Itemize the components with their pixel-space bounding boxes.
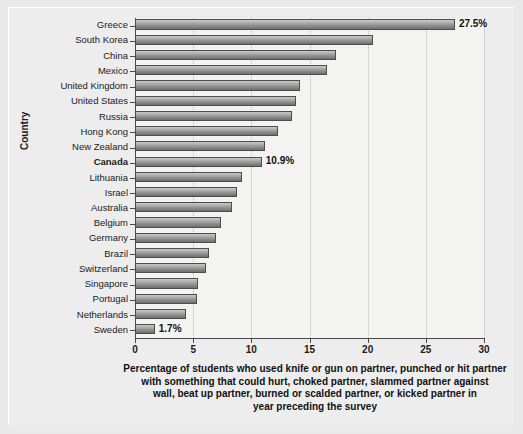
y-axis-line <box>135 18 136 338</box>
y-tick <box>130 285 135 286</box>
y-tick <box>130 132 135 133</box>
bar-row <box>135 247 484 262</box>
x-tick-15 <box>310 338 311 343</box>
y-tick-label-china: China <box>103 50 128 61</box>
y-tick-label-united-kingdom: United Kingdom <box>60 80 128 91</box>
caption-line-2: with something that could hurt, choked p… <box>115 376 515 389</box>
bar-row <box>135 277 484 292</box>
y-tick-label-portugal: Portugal <box>93 293 128 304</box>
y-tick-label-lithuania: Lithuania <box>89 172 128 183</box>
bar-row <box>135 140 484 155</box>
bar <box>135 324 155 334</box>
bar-row <box>135 186 484 201</box>
y-tick-label-netherlands: Netherlands <box>77 309 128 320</box>
caption-line-3: wall, beat up partner, burned or scalded… <box>115 388 515 401</box>
bar-row: 27.5% <box>135 18 484 33</box>
bar-row <box>135 125 484 140</box>
bar-row <box>135 48 484 63</box>
x-tick-10 <box>251 338 252 343</box>
x-tick-label-0: 0 <box>132 344 138 355</box>
y-tick <box>130 254 135 255</box>
y-tick <box>130 269 135 270</box>
bar-row <box>135 64 484 79</box>
bar-row <box>135 94 484 109</box>
y-tick <box>130 56 135 57</box>
y-tick-label-hong-kong: Hong Kong <box>80 126 128 137</box>
bar <box>135 19 455 29</box>
caption-line-4: year preceding the survey <box>115 401 515 414</box>
bar-row: 1.7% <box>135 323 484 338</box>
bar <box>135 96 296 106</box>
caption-line-1: Percentage of students who used knife or… <box>115 363 515 376</box>
gridline-30 <box>484 18 486 338</box>
bar <box>135 248 209 258</box>
bar <box>135 80 300 90</box>
y-tick-label-greece: Greece <box>97 19 128 30</box>
x-tick-label-25: 25 <box>420 344 431 355</box>
bar <box>135 126 278 136</box>
y-tick <box>130 87 135 88</box>
x-tick-0 <box>135 338 136 343</box>
bar <box>135 157 262 167</box>
y-tick-label-canada: Canada <box>94 156 128 167</box>
y-tick <box>130 102 135 103</box>
y-tick <box>130 330 135 331</box>
y-tick <box>130 163 135 164</box>
y-tick-label-brazil: Brazil <box>104 248 128 259</box>
bar <box>135 172 242 182</box>
bar <box>135 294 197 304</box>
bar <box>135 141 265 151</box>
y-axis-title: Country <box>19 112 30 150</box>
x-tick-label-5: 5 <box>190 344 196 355</box>
bar-value-label: 27.5% <box>459 18 487 29</box>
bar <box>135 202 232 212</box>
bar-value-label: 10.9% <box>266 155 294 166</box>
y-tick <box>130 117 135 118</box>
bar <box>135 35 373 45</box>
y-tick <box>130 239 135 240</box>
y-tick-label-australia: Australia <box>91 202 128 213</box>
bar-row: 10.9% <box>135 155 484 170</box>
bar <box>135 187 237 197</box>
bar <box>135 233 216 243</box>
x-tick-30 <box>484 338 485 343</box>
bar <box>135 50 336 60</box>
y-tick <box>130 208 135 209</box>
bar <box>135 65 327 75</box>
x-tick-20 <box>368 338 369 343</box>
bar-row <box>135 292 484 307</box>
y-tick-label-switzerland: Switzerland <box>79 263 128 274</box>
y-tick-label-germany: Germany <box>89 232 128 243</box>
bar <box>135 309 186 319</box>
bar-row <box>135 33 484 48</box>
bar-row <box>135 170 484 185</box>
x-tick-label-10: 10 <box>246 344 257 355</box>
bar-row <box>135 216 484 231</box>
y-tick <box>130 148 135 149</box>
figure-container: Country 27.5%10.9%1.7% 051015202530 Gree… <box>0 0 523 434</box>
y-tick <box>130 315 135 316</box>
y-tick-label-mexico: Mexico <box>98 65 128 76</box>
bar <box>135 278 198 288</box>
bar-row <box>135 201 484 216</box>
bar <box>135 111 292 121</box>
bar-row <box>135 109 484 124</box>
y-tick <box>130 41 135 42</box>
y-tick-label-sweden: Sweden <box>94 324 128 335</box>
bar <box>135 263 206 273</box>
x-tick-25 <box>426 338 427 343</box>
bar-value-label: 1.7% <box>159 323 182 334</box>
y-tick <box>130 178 135 179</box>
y-tick <box>130 71 135 72</box>
y-tick-label-israel: Israel <box>105 187 128 198</box>
x-axis-caption: Percentage of students who used knife or… <box>115 363 515 413</box>
y-tick-label-singapore: Singapore <box>85 278 128 289</box>
bar-row <box>135 79 484 94</box>
plot-area: 27.5%10.9%1.7% <box>135 18 484 338</box>
bar <box>135 217 221 227</box>
y-tick-label-south-korea: South Korea <box>75 34 128 45</box>
y-tick <box>130 193 135 194</box>
y-tick <box>130 224 135 225</box>
bar-row <box>135 262 484 277</box>
y-tick <box>130 300 135 301</box>
